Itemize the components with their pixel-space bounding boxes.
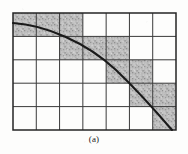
figure-caption: (a)	[0, 134, 188, 144]
figure-panel: (a)	[0, 0, 188, 154]
shaded-cells-layer	[13, 13, 176, 130]
shaded-cell-texture	[106, 36, 129, 59]
shaded-cell-texture	[153, 83, 176, 106]
grid-curve-figure	[0, 0, 188, 154]
shaded-cell-texture	[60, 13, 83, 36]
shaded-cell-texture	[129, 60, 152, 83]
shaded-cell-texture	[153, 107, 176, 130]
